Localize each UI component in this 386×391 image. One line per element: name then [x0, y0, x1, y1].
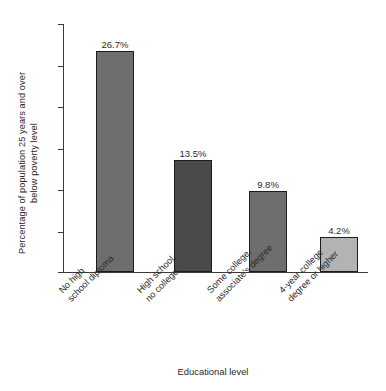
y-tick-mark-20 [58, 107, 63, 108]
bar-value-label-3: 9.8% [245, 180, 291, 190]
bar-value-label-2: 13.5% [170, 149, 216, 159]
x-axis-title: Educational level [0, 366, 386, 377]
bar-chart-figure: Percentage of population 25 years and ov… [0, 0, 386, 391]
y-tick-mark-30 [58, 24, 63, 25]
plot-area: 26.7% 13.5% 9.8% 4.2% [63, 24, 368, 273]
bar-value-label-1: 26.7% [92, 40, 138, 50]
bar-high-school-no-college[interactable] [174, 160, 212, 272]
y-tick-mark-5 [58, 232, 63, 233]
bar-value-label-4: 4.2% [316, 226, 362, 236]
y-tick-mark-15 [58, 149, 63, 150]
y-axis-title: Percentage of population 25 years and ov… [17, 33, 47, 293]
y-axis-title-line-1: Percentage of population 25 years and ov… [17, 33, 29, 293]
y-axis-line [63, 24, 64, 273]
y-tick-mark-10 [58, 190, 63, 191]
bar-no-high-school-diploma[interactable] [96, 51, 134, 272]
y-tick-mark-0 [58, 272, 63, 273]
y-axis-title-line-2: below poverty level [29, 33, 41, 293]
y-tick-mark-25 [58, 66, 63, 67]
